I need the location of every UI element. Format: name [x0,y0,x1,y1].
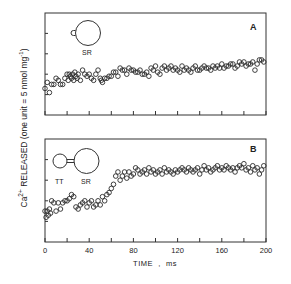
x-tick-label: 80 [129,246,137,255]
data-point [54,209,59,214]
panel-b: B TT SR [43,139,266,242]
inset-a-sr-vesicle-icon [71,21,101,46]
x-tick-label: 0 [43,246,47,255]
data-point [96,68,101,73]
inset-b-tt-label: TT [55,178,64,185]
x-axis-title: TIME , ms [133,259,177,268]
data-point [111,182,116,187]
data-point [47,90,52,95]
data-point [153,64,158,69]
inset-a-sr-label: SR [82,49,92,56]
data-point [242,161,247,166]
panel-b-x-ticks [45,238,266,242]
panel-a-label: A [250,22,257,32]
x-tick-label: 200 [260,246,273,255]
x-tick-label: 160 [216,246,229,255]
data-point [116,74,121,79]
data-point [116,170,121,175]
x-tick-label: 120 [171,246,184,255]
data-point [248,170,253,175]
panel-b-data-points [43,161,266,219]
x-tick-label: 40 [85,246,93,255]
data-point [160,172,165,177]
data-point [124,176,129,181]
x-axis-tick-labels: 04080120160200 [43,246,272,255]
inset-b-tt-sr-triad-icon [53,149,99,174]
data-point [147,74,152,79]
data-point [261,163,266,168]
panel-b-frame [45,139,266,242]
panel-a-data-points [43,58,266,95]
data-point [45,80,50,85]
y-axis-title: Ca2+ RELEASED (one unit = 5 nmol mg-1) [17,48,29,207]
data-point [56,201,61,206]
panel-a-x-ticks [45,111,266,115]
data-point [122,170,127,175]
data-point [98,203,103,208]
panel-b-label: B [250,144,257,154]
figure: A SR B TT SR 04080120160200 TIME , ms Ca… [0,0,291,284]
panel-a: A SR [43,13,266,115]
data-point [102,199,107,204]
data-point [58,207,63,212]
data-point [144,172,149,177]
data-point [253,68,258,73]
inset-b-sr-label: SR [81,178,91,185]
data-point [124,72,129,77]
